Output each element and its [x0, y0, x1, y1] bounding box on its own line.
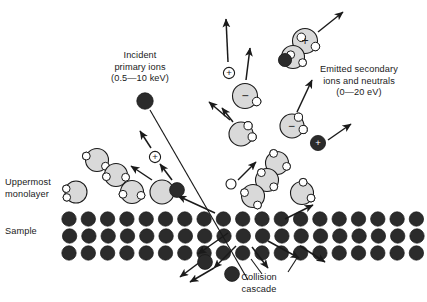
negative-ion-right: −	[280, 113, 307, 138]
label-collision-cascade: Collision cascade	[228, 272, 290, 295]
molecule-satellite-atom	[241, 189, 249, 197]
cluster-dark-atom	[278, 53, 291, 66]
charge-minus-symbol: −	[241, 89, 248, 103]
lattice-atom	[371, 229, 385, 243]
dark-atom-body	[278, 53, 291, 66]
lattice-atom	[390, 246, 404, 260]
lattice-atom	[390, 212, 404, 226]
charge-plus-symbol: +	[315, 137, 321, 148]
molecule-satellite-atom	[270, 183, 278, 191]
molecule-satellite-atom	[299, 178, 307, 186]
lattice-atom	[120, 229, 134, 243]
diagram-svg: −−+ + ++	[0, 0, 427, 302]
ejection-arrow-posion	[328, 124, 351, 140]
lattice-atom	[81, 212, 95, 226]
ejection-arrow-plainmol	[131, 166, 152, 180]
cascade-arrow-down-3	[180, 262, 200, 277]
label-uppermost-monolayer: Uppermost monolayer	[5, 177, 79, 200]
lattice-atom	[178, 246, 192, 260]
incident-primary-ion	[137, 93, 153, 109]
dark-atom-body	[198, 255, 213, 270]
lattice-atom	[332, 246, 346, 260]
neutral-atom-small	[226, 179, 236, 189]
molecule-satellite-atom	[299, 125, 307, 133]
molecule-satellite-atom	[254, 201, 262, 209]
molecule-satellite-atom	[294, 113, 302, 121]
molecule-satellite-atom	[244, 122, 252, 130]
small-neutral-group	[226, 179, 236, 189]
lattice-atom	[140, 229, 154, 243]
lattice-atom	[178, 229, 192, 243]
dark-atom-body	[170, 183, 185, 198]
molecule-satellite-atom	[311, 42, 320, 51]
lattice-atom	[101, 229, 115, 243]
charge-plus-symbol: +	[226, 67, 232, 78]
lattice-atom	[81, 246, 95, 260]
lattice-atom	[275, 229, 289, 243]
ejection-arrow-cluster	[318, 12, 343, 32]
molecule-satellite-atom	[248, 133, 256, 141]
lattice-atom	[139, 212, 153, 226]
cascade-arrow-bottom-left	[190, 268, 214, 282]
label-emitted-secondary: Emitted secondary ions and neutrals (0—2…	[300, 64, 418, 99]
lattice-atom	[391, 229, 405, 243]
molecule-satellite-atom	[137, 191, 145, 199]
lattice-atom	[332, 212, 346, 226]
lattice-atom	[313, 212, 327, 226]
molecule-satellite-atom	[82, 152, 90, 160]
diagram-canvas: −−+ + ++ Incident primary ions (0.5—10 k…	[0, 0, 427, 302]
lattice-atom	[236, 229, 250, 243]
lattice-atom	[352, 229, 366, 243]
ejection-arrow-up-1	[226, 19, 228, 62]
monolayer-molecule-g	[241, 185, 265, 209]
molecule-satellite-atom	[122, 173, 130, 181]
lattice-atom	[139, 246, 153, 260]
positive-ion-left: +	[149, 151, 160, 163]
lattice-atom	[198, 229, 212, 243]
molecule-satellite-atom	[307, 194, 315, 202]
lattice-atom	[371, 246, 385, 260]
lattice-atom	[100, 246, 114, 260]
charge-plus-symbol: +	[301, 34, 308, 48]
lattice-atom	[120, 212, 134, 226]
dark-atom-body	[137, 93, 153, 109]
label-incident-primary-ions: Incident primary ions (0.5—10 keV)	[88, 50, 192, 85]
positive-ion-upper: +	[223, 67, 234, 79]
lattice-atom	[82, 229, 96, 243]
lattice-atom	[62, 246, 76, 260]
lattice-atom	[313, 229, 327, 243]
lattice-atom	[409, 246, 423, 260]
lattice-atom	[351, 212, 365, 226]
cascade-arrow-surface-left	[178, 196, 215, 213]
ejection-arrow-up-2	[246, 48, 250, 80]
lattice-atom	[236, 212, 250, 226]
lattice-atom	[236, 246, 250, 260]
ejection-arrow-posleft	[140, 131, 151, 148]
lattice-atom	[120, 246, 134, 260]
lattice-atom	[410, 229, 424, 243]
lattice-atom	[293, 246, 307, 260]
monolayer-molecule-h	[291, 178, 315, 204]
lattice-atom	[197, 212, 211, 226]
lattice-atom	[62, 212, 76, 226]
lattice-atom	[216, 212, 230, 226]
substrate-lattice	[62, 212, 424, 260]
lattice-atom	[178, 212, 192, 226]
negative-ion-upper: −	[233, 84, 261, 109]
ejected-atom-lower-left	[198, 255, 213, 270]
lattice-atom	[294, 229, 308, 243]
ejection-arrow-smallneutral	[238, 162, 256, 180]
lattice-atom	[159, 229, 173, 243]
lattice-atom	[409, 212, 423, 226]
label-sample: Sample	[5, 226, 65, 238]
ejection-arrow-recoil	[160, 164, 172, 180]
lattice-atom	[351, 246, 365, 260]
molecule-satellite-atom	[119, 190, 127, 198]
lattice-atom	[255, 229, 269, 243]
monolayer-molecule-a	[82, 149, 109, 172]
molecule-satellite-atom	[103, 173, 111, 181]
emitted-positive-ion: +	[310, 135, 325, 150]
lattice-atom	[158, 212, 172, 226]
leader-collision-cascade-2	[288, 258, 297, 272]
lattice-atom	[158, 246, 172, 260]
